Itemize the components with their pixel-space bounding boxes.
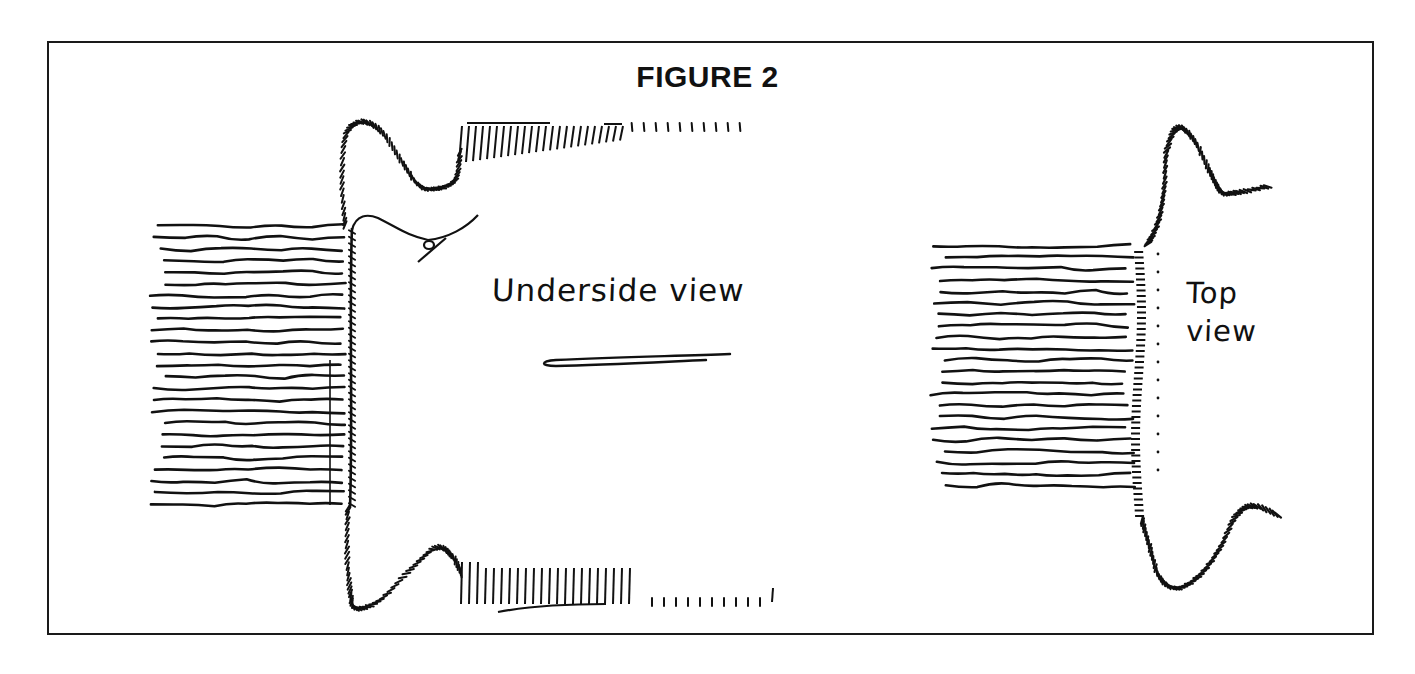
binding-hatch-line [533,568,534,604]
binding-hatch-tick [644,123,645,131]
binding-outline-dash [408,169,410,177]
binding-dot [1157,397,1160,400]
binding-hatch-line [509,568,510,604]
binding-hatch-line [620,126,623,140]
binding-dot [1157,343,1160,346]
rug-row-line [933,438,1130,442]
binding-hatch-line [589,568,590,604]
binding-dot [1157,307,1160,310]
binding-outline-dash [402,573,410,575]
underside-whipstitch-edge [349,228,355,508]
rug-row-line [934,301,1134,305]
binding-hatch-line [487,126,490,159]
rug-row-line [937,461,1134,464]
rug-row-line [161,248,342,251]
rug-row-line [152,328,343,331]
binding-hatch-line [629,568,630,604]
binding-outline-dash [426,550,434,552]
binding-hatch-line [522,126,525,154]
rug-row-line [154,398,342,401]
rug-row-line [164,259,343,262]
binding-hatch-tick [716,123,717,131]
binding-hatch-line [613,126,616,141]
rug-row-line [933,244,1130,248]
binding-hatch-tick [668,123,669,131]
rug-row-line [939,324,1128,328]
top-view-label-line1: Top [1185,276,1238,310]
rug-row-line [158,353,345,355]
binding-hatch-line [578,126,581,146]
binding-outline-dash [401,158,403,166]
rug-row-line [165,283,345,285]
rug-row-line [940,404,1127,406]
binding-outline-dash [387,134,388,142]
underside-binding-bottom-hatching [461,562,773,612]
top-view-rug-rows [931,244,1135,487]
rug-row-line [940,279,1133,282]
binding-hatch-line [501,126,504,157]
rug-row-line [152,410,344,414]
binding-outline-dash [404,161,405,169]
rug-row-line [151,341,340,344]
binding-outline-dash [388,588,395,592]
binding-hatch-tick [656,123,657,131]
underside-rug-rows [150,224,345,506]
binding-hatch-line [493,568,494,604]
binding-dot [1157,451,1160,454]
rug-row-line [162,444,343,447]
binding-hatch-line [571,126,574,147]
tape-curve-dash [1208,164,1209,172]
binding-hatch-line [466,126,469,162]
binding-outline-dash [406,569,414,571]
binding-outline-dash [383,131,385,139]
binding-hatch-line [529,126,532,153]
top-view-tape-upper-curve [1145,125,1272,246]
binding-hatch-line [585,126,588,145]
underline-path [544,354,730,366]
binding-hatch-line [501,568,502,604]
binding-hatch-line [557,568,558,604]
binding-hatch-tick [728,123,729,131]
binding-hatch-line [543,126,546,151]
binding-dot [1157,271,1160,274]
rug-row-line [158,224,344,227]
binding-outline-dash [383,593,391,595]
binding-hatch-line [557,126,560,149]
rug-row-line [155,468,342,471]
top-view-tape-lower-curve [1141,504,1281,590]
top-view-binding-edge [1131,252,1159,516]
binding-hatch-line [461,562,462,604]
underside-binding-outline [340,119,462,610]
binding-hatch-line [494,126,497,158]
binding-hatch-line [565,568,566,604]
binding-outline-dash [342,195,344,203]
tape-curve-dash [1206,160,1207,168]
rug-row-line [936,336,1125,339]
binding-hatch-tick [704,123,705,131]
top-view-label-line2: view [1185,314,1257,348]
rug-row-line [155,491,344,494]
binding-hatch-tick [680,123,681,131]
binding-outline-dash [363,607,371,608]
rug-row-line [940,416,1133,420]
tape-curve-dash [1182,585,1190,586]
rug-row-line [939,313,1126,316]
binding-hatch-line [536,126,539,152]
binding-hatch-line [477,562,478,604]
binding-outline-dash [392,142,393,150]
binding-hatch-line [573,568,574,604]
binding-hatch-line [564,126,567,148]
binding-hatch-line [772,588,773,602]
binding-dot [1157,289,1160,292]
binding-hatch-line [515,126,518,155]
binding-hatch-line [613,568,614,604]
rug-row-line [945,449,1134,453]
rug-row-line [165,271,342,274]
binding-hatch-line [473,126,476,161]
rug-row-line [942,370,1124,372]
binding-bottom-edge [498,604,606,612]
binding-hatch-line [480,126,483,160]
binding-hatch-line [621,568,622,604]
tape-curve-dash [1200,147,1201,155]
label-underline-stroke [544,354,730,366]
